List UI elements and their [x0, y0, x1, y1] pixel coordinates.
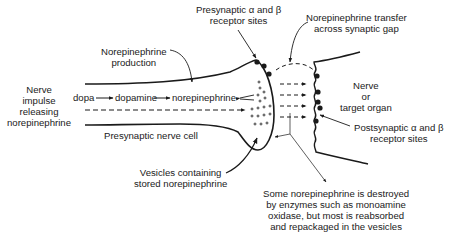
label-transfer: Norepinephrine transfer across synaptic …	[306, 12, 407, 34]
transfer-arrows	[280, 84, 306, 117]
pathway-norepinephrine: norepinephrine	[172, 92, 236, 103]
presynaptic-receptor-dots	[254, 59, 271, 76]
label-nerve-impulse: Nerve impulse releasing norepinephrine	[7, 84, 71, 128]
label-enzymes: Some norepinephrine is destroyed by enzy…	[263, 188, 409, 232]
arrow-to-vesicles	[240, 95, 254, 98]
pointer-production	[170, 50, 192, 82]
label-vesicles: Vesicles containing stored norepinephrin…	[134, 167, 227, 189]
label-postsynaptic-receptors: Postsynaptic α and β receptor sites	[354, 122, 443, 144]
pointer-presynaptic-receptors	[238, 30, 256, 58]
label-presynaptic-receptors: Presynaptic α and β receptor sites	[196, 4, 281, 26]
pathway-dopamine: dopamine	[115, 92, 157, 103]
pointer-postsynaptic	[320, 115, 350, 126]
label-target: Nerve or target organ	[340, 80, 392, 113]
vesicles	[251, 81, 271, 125]
pointer-vesicles	[226, 138, 257, 173]
label-production: Norepinephrine production	[101, 46, 167, 68]
label-presynaptic-cell: Presynaptic nerve cell	[104, 130, 198, 141]
synaptic-gap-arc	[276, 64, 316, 72]
pathway-dopa: dopa	[73, 92, 94, 103]
